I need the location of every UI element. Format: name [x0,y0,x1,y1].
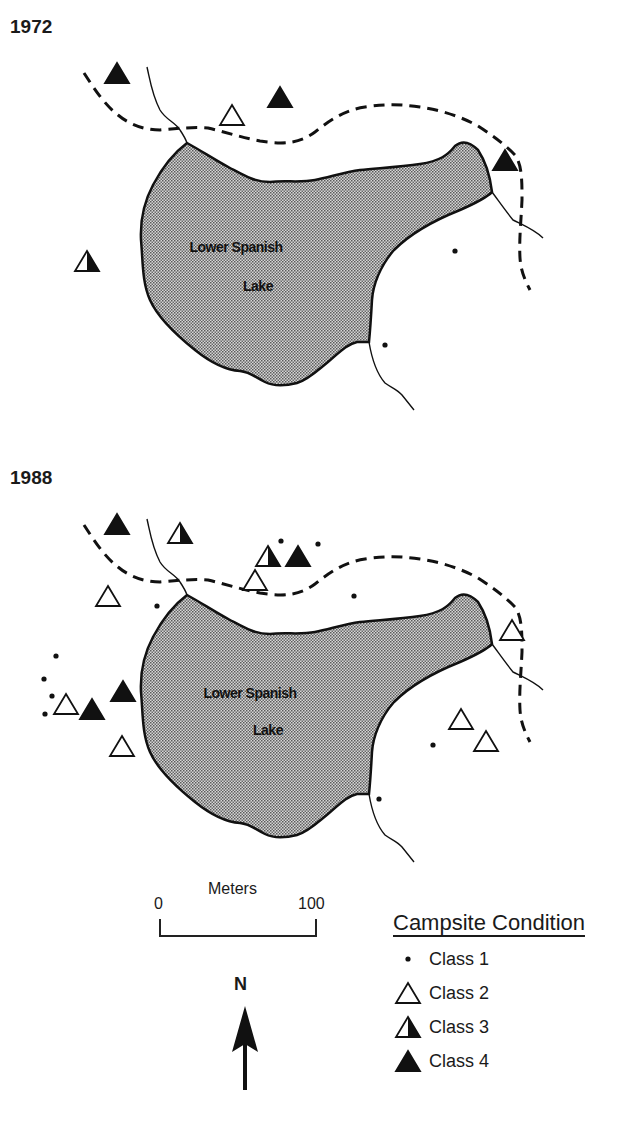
scale-bar: Meters 0 100 [150,880,350,950]
class-1-dot-icon [351,593,356,598]
dot-icon [393,946,423,972]
map-1988: Lower Spanish Lake [84,519,543,862]
class-4-filled-triangle-icon [286,546,310,566]
lake-name-line1-1972: Lower Spanish [189,239,282,255]
scale-bracket [159,919,317,937]
lake-name-line2-1972: Lake [243,278,274,294]
legend: Campsite Condition Class 1 Class 2 Class… [393,910,632,1078]
legend-title: Campsite Condition [393,910,632,936]
class-4-filled-triangle-icon [105,63,129,83]
legend-label: Class 4 [429,1051,489,1072]
class-1-dot-icon [278,538,283,543]
class-4-filled-triangle-icon [268,87,292,107]
filled-triangle-icon [393,1048,423,1074]
half-filled-triangle-icon [393,1014,423,1040]
class-2-open-triangle-icon [474,731,498,751]
class-1-dot-icon [53,653,58,658]
class-2-open-triangle-icon [449,709,473,729]
class-1-dot-icon [41,676,46,681]
class-3-half-triangle-icon [256,546,280,566]
map-1972: Lower Spanish Lake [75,63,543,410]
open-triangle-icon [393,980,423,1006]
maps-canvas: Lower Spanish Lake Lower Spanish Lake [0,0,632,880]
class-1-dot-icon [376,796,381,801]
lake-name-line2-1988: Lake [253,722,284,738]
class-4-filled-triangle-icon [80,699,104,719]
scale-min-label: 0 [154,895,163,913]
class-4-filled-triangle-icon [111,681,135,701]
class-3-half-triangle-icon [168,523,192,543]
class-1-dot-icon [154,603,159,608]
north-arrow: N [222,970,272,1100]
class-1-dot-icon [315,541,320,546]
legend-item-class-3: Class 3 [393,1010,632,1044]
class-4-filled-triangle-icon [105,514,129,534]
legend-item-class-1: Class 1 [393,942,632,976]
north-arrow-icon [222,970,272,1100]
lake-name-line1-1988: Lower Spanish [203,685,296,701]
class-1-dot-icon [452,248,457,253]
class-2-open-triangle-icon [54,694,78,714]
class-3-half-triangle-icon [75,251,99,271]
class-2-open-triangle-icon [96,586,120,606]
class-1-dot-icon [42,711,47,716]
legend-label: Class 2 [429,983,489,1004]
legend-label: Class 1 [429,949,489,970]
scale-max-label: 100 [298,895,325,913]
class-1-dot-icon [382,342,387,347]
legend-item-class-4: Class 4 [393,1044,632,1078]
class-1-dot-icon [430,742,435,747]
class-2-open-triangle-icon [110,736,134,756]
class-1-dot-icon [49,693,54,698]
legend-item-class-2: Class 2 [393,976,632,1010]
legend-label: Class 3 [429,1017,489,1038]
scale-title: Meters [208,880,257,898]
class-2-open-triangle-icon [220,105,244,125]
class-2-open-triangle-icon [243,570,267,590]
